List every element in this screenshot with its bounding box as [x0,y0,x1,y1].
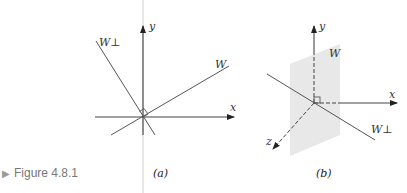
panel-b-z-label: z [265,135,272,148]
panel-a-w-line [111,66,229,135]
panel-b: y x z W W⊥ (b) [265,20,397,180]
panel-a-caption: (a) [153,167,168,180]
panel-a-wperp-line [96,41,155,135]
figure-caption[interactable]: ▶Figure 4.8.1 [2,166,78,180]
play-triangle-icon: ▶ [2,168,10,179]
panel-b-y-label: y [318,20,326,33]
panel-a-x-label: x [230,101,237,114]
panel-b-plane-w [290,44,340,156]
panel-b-caption: (b) [316,167,332,180]
figure-canvas: y x W W⊥ (a) y x z W W⊥ (b) [0,0,407,193]
panel-a-wperp-label: W⊥ [99,36,121,49]
figure-caption-label: Figure 4.8.1 [14,166,78,180]
panel-b-wperp-label: W⊥ [371,123,393,136]
panel-b-w-label: W [329,47,342,60]
panel-a: y x W W⊥ (a) [95,20,237,180]
panel-b-x-label: x [389,88,396,101]
panel-a-w-label: W [215,58,228,71]
panel-a-y-label: y [148,20,156,33]
